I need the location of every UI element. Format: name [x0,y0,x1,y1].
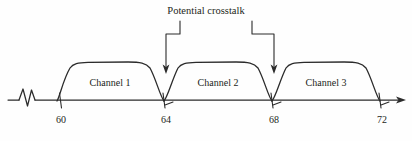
left-crosstalk-arrow-stem [166,21,180,66]
channel-3: Channel 3 [272,62,380,101]
right-crosstalk-arrow-stem [252,21,274,66]
tick-label-72: 72 [377,114,387,125]
channel-1-label: Channel 1 [90,77,131,88]
tick-label-60: 60 [56,114,66,125]
tick-whisker-68-icon [273,102,281,105]
left-crosstalk-arrow [163,21,180,74]
frequency-axis [8,89,406,106]
channel-1: Channel 1 [57,62,164,101]
channel-2-label: Channel 2 [198,77,239,88]
tick-label-64: 64 [161,114,171,125]
tick-label-68: 68 [269,114,279,125]
axis-tick-labels: 60 64 68 72 [56,114,387,125]
tick-whisker-72-icon [381,102,389,105]
annotation-label: Potential crosstalk [167,5,245,16]
channel-2: Channel 2 [164,62,272,101]
crosstalk-figure: Potential crosstalk Channel 1 [0,0,412,141]
crosstalk-diagram-canvas: Potential crosstalk Channel 1 [0,0,412,141]
channel-3-label: Channel 3 [306,77,347,88]
axis-break-zigzag-icon [19,89,35,106]
tick-whisker-64-icon [165,102,173,105]
